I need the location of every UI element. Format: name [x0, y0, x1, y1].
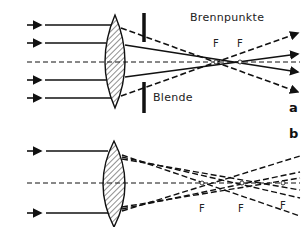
focal-label-1: F — [213, 38, 219, 49]
focal-point-2 — [240, 181, 244, 185]
focal-point-2 — [238, 60, 242, 64]
diverging-focus-rays — [122, 155, 300, 216]
paraxial-rays — [125, 45, 298, 77]
focal-label-b1: F — [199, 203, 205, 214]
focal-point-1 — [200, 181, 204, 185]
focal-label-b3: F — [280, 200, 286, 211]
panel-a-label: a — [289, 100, 298, 115]
incoming-rays — [46, 151, 108, 213]
focal-point-1 — [214, 60, 218, 64]
focal-point-3 — [281, 181, 285, 185]
focal-label-2: F — [237, 38, 243, 49]
incoming-ray-arrows — [27, 151, 41, 213]
brennpunkte-label: Brennpunkte — [190, 11, 264, 24]
panel-b-label: b — [289, 126, 298, 141]
optics-diagram — [0, 0, 307, 227]
lens-icon — [103, 141, 125, 227]
panel-b — [27, 141, 300, 227]
blende-label: Blende — [153, 91, 193, 104]
focal-label-b2: F — [238, 203, 244, 214]
